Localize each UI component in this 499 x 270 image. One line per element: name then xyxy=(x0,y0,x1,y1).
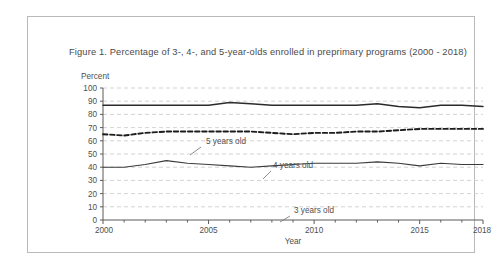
series-label-4-years-old: 4 years old xyxy=(273,161,313,170)
y-tick-label-10: 10 xyxy=(88,203,98,212)
series-label-3-years-old: 3 years old xyxy=(294,206,334,215)
line-chart: 0102030405060708090100 20002005201020152… xyxy=(68,67,493,252)
y-tick-label-80: 80 xyxy=(88,110,98,119)
series-line-4-years-old xyxy=(103,129,483,136)
x-tick-label-2010: 2010 xyxy=(305,226,324,235)
y-tick-label-100: 100 xyxy=(83,84,97,93)
y-axis-caption: Percent xyxy=(81,72,110,81)
y-tick-label-70: 70 xyxy=(88,124,98,133)
y-tick-label-30: 30 xyxy=(88,176,98,185)
x-tick-label-2000: 2000 xyxy=(95,226,114,235)
y-tick-label-90: 90 xyxy=(88,97,98,106)
x-axis-caption: Year xyxy=(285,237,302,246)
y-tick-label-60: 60 xyxy=(88,137,98,146)
y-tick-label-0: 0 xyxy=(92,216,97,225)
x-tick-label-2005: 2005 xyxy=(199,226,218,235)
y-axis-ticks: 0102030405060708090100 xyxy=(83,84,103,225)
leader-line-3-years-old xyxy=(280,216,290,222)
y-tick-label-20: 20 xyxy=(88,190,98,199)
series-label-5-years-old: 5 years old xyxy=(206,137,246,146)
y-tick-label-40: 40 xyxy=(88,163,98,172)
figure-title: Figure 1. Percentage of 3-, 4-, and 5-ye… xyxy=(69,47,499,57)
screenshot-page: Figure 1. Percentage of 3-, 4-, and 5-ye… xyxy=(0,0,499,270)
leader-line-4-years-old xyxy=(263,171,271,179)
x-tick-label-2015: 2015 xyxy=(411,226,430,235)
y-tick-label-50: 50 xyxy=(88,150,98,159)
x-tick-label-2018: 2018 xyxy=(473,226,492,235)
data-series-group xyxy=(103,103,483,168)
x-axis-ticks: 20002005201020152018 xyxy=(95,220,492,235)
figure-frame: Figure 1. Percentage of 3-, 4-, and 5-ye… xyxy=(27,16,475,253)
chart-svg: 0102030405060708090100 20002005201020152… xyxy=(68,67,493,252)
series-line-5-years-old xyxy=(103,103,483,108)
series-annotations: 5 years old4 years old3 years old xyxy=(190,137,334,222)
